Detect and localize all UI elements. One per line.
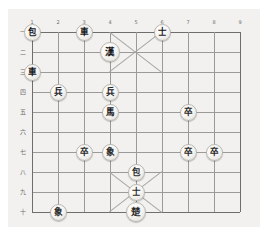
piece-elephant-red-f2r10[interactable]: 象 bbox=[50, 204, 67, 221]
board-frame: 123456789 一二三四五六七八九十 包車士漢車兵兵馬卒卒象卒卒包士楚象 bbox=[8, 9, 260, 227]
piece-glyph: 卒 bbox=[210, 148, 219, 157]
piece-glyph: 士 bbox=[158, 28, 167, 37]
rank-label-9: 九 bbox=[17, 187, 29, 197]
file-label-2: 2 bbox=[51, 19, 65, 26]
piece-advisor-red-f5r9[interactable]: 士 bbox=[128, 184, 145, 201]
piece-glyph: 兵 bbox=[54, 88, 63, 97]
piece-glyph: 象 bbox=[54, 208, 63, 217]
rank-label-10: 十 bbox=[17, 207, 29, 217]
file-label-5: 5 bbox=[129, 19, 143, 26]
piece-glyph: 卒 bbox=[80, 148, 89, 157]
piece-han-general-blue-f4r2[interactable]: 漢 bbox=[100, 42, 120, 62]
piece-glyph: 包 bbox=[28, 28, 37, 37]
file-label-9: 9 bbox=[233, 19, 247, 26]
piece-glyph: 車 bbox=[80, 28, 89, 37]
rank-label-5: 五 bbox=[17, 107, 29, 117]
piece-glyph: 卒 bbox=[184, 148, 193, 157]
piece-soldier-red-f8r7[interactable]: 卒 bbox=[206, 144, 223, 161]
piece-soldier-red-f3r7[interactable]: 卒 bbox=[76, 144, 93, 161]
piece-glyph: 漢 bbox=[105, 47, 115, 57]
grid-line-file-3 bbox=[84, 32, 85, 212]
piece-glyph: 象 bbox=[106, 148, 115, 157]
piece-glyph: 馬 bbox=[106, 108, 115, 117]
piece-glyph: 卒 bbox=[184, 108, 193, 117]
piece-glyph: 士 bbox=[132, 188, 141, 197]
file-label-7: 7 bbox=[181, 19, 195, 26]
grid-line-file-7 bbox=[188, 32, 189, 212]
piece-cannon-red-f5r8[interactable]: 包 bbox=[128, 164, 145, 181]
grid-line-file-9 bbox=[240, 32, 241, 212]
piece-soldier-red-f7r5[interactable]: 卒 bbox=[180, 104, 197, 121]
piece-chariot-blue-f3r1[interactable]: 車 bbox=[76, 24, 93, 41]
piece-soldier-blue-f4r4[interactable]: 兵 bbox=[102, 84, 119, 101]
file-label-4: 4 bbox=[103, 19, 117, 26]
rank-label-7: 七 bbox=[17, 147, 29, 157]
janggi-app: 123456789 一二三四五六七八九十 包車士漢車兵兵馬卒卒象卒卒包士楚象 bbox=[0, 0, 268, 235]
piece-soldier-red-f7r7[interactable]: 卒 bbox=[180, 144, 197, 161]
grid-line-file-6 bbox=[162, 32, 163, 212]
rank-label-6: 六 bbox=[17, 127, 29, 137]
board-grid[interactable]: 包車士漢車兵兵馬卒卒象卒卒包士楚象 bbox=[32, 32, 240, 212]
grid-line-file-1 bbox=[32, 32, 33, 212]
piece-soldier-blue-f2r4[interactable]: 兵 bbox=[50, 84, 67, 101]
grid-line-file-8 bbox=[214, 32, 215, 212]
rank-label-4: 四 bbox=[17, 87, 29, 97]
piece-horse-blue-f4r5[interactable]: 馬 bbox=[102, 104, 119, 121]
piece-glyph: 楚 bbox=[131, 207, 141, 217]
rank-label-2: 二 bbox=[17, 47, 29, 57]
piece-glyph: 車 bbox=[28, 68, 37, 77]
piece-glyph: 包 bbox=[132, 168, 141, 177]
grid-line-file-2 bbox=[58, 32, 59, 212]
piece-chu-general-red-f5r10[interactable]: 楚 bbox=[126, 202, 146, 222]
piece-chariot-blue-f1r3[interactable]: 車 bbox=[24, 64, 41, 81]
rank-label-8: 八 bbox=[17, 167, 29, 177]
piece-elephant-red-f4r7[interactable]: 象 bbox=[102, 144, 119, 161]
piece-cannon-blue-f1r1[interactable]: 包 bbox=[24, 24, 41, 41]
file-label-8: 8 bbox=[207, 19, 221, 26]
piece-advisor-blue-f6r1[interactable]: 士 bbox=[154, 24, 171, 41]
piece-glyph: 兵 bbox=[106, 88, 115, 97]
board-surface[interactable]: 123456789 一二三四五六七八九十 包車士漢車兵兵馬卒卒象卒卒包士楚象 bbox=[8, 9, 260, 227]
